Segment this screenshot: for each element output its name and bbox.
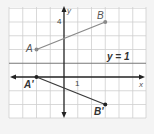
- label-B-prime: B': [94, 106, 104, 117]
- label-A: A: [25, 43, 33, 54]
- coordinate-plane: A B A' B' y = 1 4 1 y x: [0, 0, 154, 134]
- point-B-prime: [103, 103, 107, 107]
- y-tick-label: 4: [57, 17, 62, 26]
- label-A-prime: A': [23, 79, 34, 90]
- point-A: [35, 48, 39, 52]
- label-reflection-line: y = 1: [106, 51, 130, 62]
- point-A-prime: [35, 75, 39, 79]
- point-B: [103, 20, 107, 24]
- coordinate-diagram: A B A' B' y = 1 4 1 y x: [0, 0, 154, 134]
- x-tick-label: 1: [75, 79, 80, 88]
- label-B: B: [97, 10, 104, 21]
